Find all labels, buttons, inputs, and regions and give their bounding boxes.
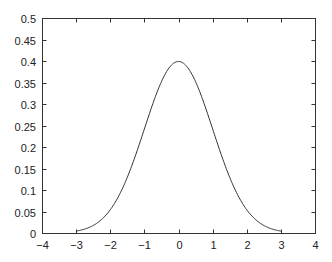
y-tick-label: 0.45 (15, 35, 36, 47)
x-tick-label: 2 (244, 239, 250, 251)
x-tick-label: −2 (104, 239, 117, 251)
y-tick-label: 0 (30, 228, 36, 240)
y-tick-label: 0.05 (15, 207, 36, 219)
y-tick-label: 0.35 (15, 78, 36, 90)
y-tick-label: 0.25 (15, 121, 36, 133)
y-tick-label: 0.3 (21, 99, 36, 111)
y-tick-label: 0.5 (21, 13, 36, 25)
x-tick-label: 1 (210, 239, 216, 251)
y-axis: 00.050.10.150.20.250.30.350.40.450.5 (15, 13, 316, 240)
x-tick-label: −3 (70, 239, 83, 251)
x-tick-label: −4 (36, 239, 49, 251)
pdf-curve (76, 61, 281, 231)
x-tick-label: 3 (278, 239, 284, 251)
x-axis: −4−3−2−101234 (36, 19, 318, 252)
y-tick-label: 0.2 (21, 142, 36, 154)
x-tick-label: 0 (176, 239, 182, 251)
y-tick-label: 0.15 (15, 164, 36, 176)
x-tick-label: −1 (138, 239, 151, 251)
x-tick-label: 4 (312, 239, 318, 251)
plot-frame (43, 19, 316, 234)
y-tick-label: 0.4 (21, 56, 36, 68)
y-tick-label: 0.1 (21, 185, 36, 197)
normal-distribution-chart: 00.050.10.150.20.250.30.350.40.450.5 −4−… (0, 0, 332, 262)
